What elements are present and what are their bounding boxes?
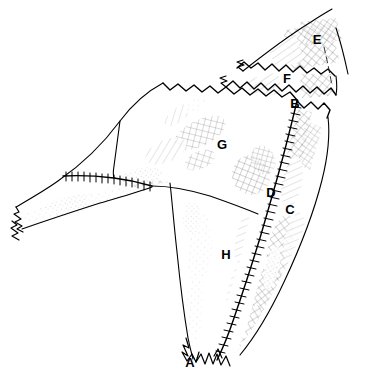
label-c: C: [285, 202, 295, 217]
label-g: G: [217, 137, 227, 152]
label-d: D: [266, 185, 275, 200]
shading-left-wing: [13, 181, 140, 232]
label-e: E: [313, 32, 322, 47]
label-a: A: [185, 355, 195, 370]
anatomical-line-drawing: E F B G D C H A: [0, 0, 366, 377]
label-f: F: [283, 71, 291, 86]
figure-root: E F B G D C H A: [0, 0, 366, 377]
label-b: B: [290, 96, 299, 111]
label-h: H: [221, 247, 230, 262]
